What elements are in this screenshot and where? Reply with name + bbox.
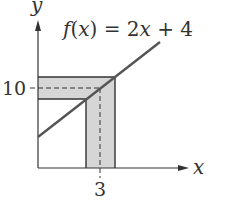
- x-tick-label: 3: [94, 178, 106, 200]
- x-axis-label: x: [193, 155, 204, 179]
- y-axis-arrow-icon: [35, 20, 41, 31]
- function-label: f(x) = 2x + 4: [61, 17, 193, 41]
- function-limit-diagram: y x 10 3 f(x) = 2x + 4: [0, 0, 244, 203]
- y-axis-label: y: [30, 0, 43, 17]
- x-axis-arrow-icon: [178, 165, 189, 171]
- y-tick-label: 10: [2, 77, 26, 99]
- vertical-shaded-band: [86, 99, 115, 168]
